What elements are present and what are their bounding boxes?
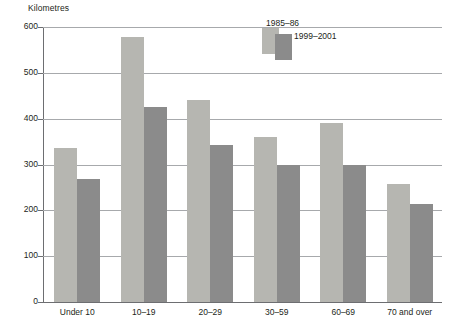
gridline — [43, 119, 442, 120]
y-axis-tick-label: 100 — [24, 250, 38, 260]
bar-chart: Kilometres 0100200300400500600 Under 101… — [0, 0, 458, 332]
y-axis-tick-labels: 0100200300400500600 — [0, 27, 38, 302]
x-axis-tick-label: 10–19 — [132, 307, 156, 317]
bar — [320, 123, 343, 302]
bar — [387, 184, 410, 302]
y-axis-tick-label: 0 — [33, 296, 38, 306]
bar — [254, 137, 277, 302]
bar — [277, 165, 300, 302]
bar — [210, 145, 233, 302]
bar — [54, 148, 77, 302]
x-axis-tick-label: Under 10 — [60, 307, 95, 317]
y-axis-tick-label: 300 — [24, 159, 38, 169]
gridline — [43, 256, 442, 257]
legend-label-1999-2001: 1999–2001 — [294, 31, 337, 41]
x-axis-tick-label: 20–29 — [198, 307, 222, 317]
x-axis-tick-label: 30–59 — [265, 307, 289, 317]
gridline — [43, 165, 442, 166]
bar — [121, 37, 144, 302]
x-axis-tick-label: 60–69 — [331, 307, 355, 317]
y-axis-title: Kilometres — [28, 3, 69, 13]
legend-swatch-1999-2001 — [275, 34, 292, 60]
bar — [187, 100, 210, 302]
legend-label-1985-86: 1985–86 — [266, 18, 299, 28]
gridline — [43, 210, 442, 211]
x-axis-tick-label: 70 and over — [387, 307, 432, 317]
bar — [77, 179, 100, 302]
y-axis-tick-label: 500 — [24, 67, 38, 77]
y-axis-tick-label: 600 — [24, 21, 38, 31]
y-axis-tick-label: 400 — [24, 113, 38, 123]
chart-legend: 1985–86 1999–2001 — [262, 18, 392, 60]
bar — [410, 204, 433, 302]
plot-area — [43, 27, 442, 302]
x-axis-tick-labels: Under 1010–1920–2930–5960–6970 and over — [43, 307, 442, 327]
bar — [343, 165, 366, 302]
bar — [144, 107, 167, 302]
x-axis-baseline — [43, 302, 442, 303]
gridline — [43, 73, 442, 74]
y-axis-tick-label: 200 — [24, 204, 38, 214]
